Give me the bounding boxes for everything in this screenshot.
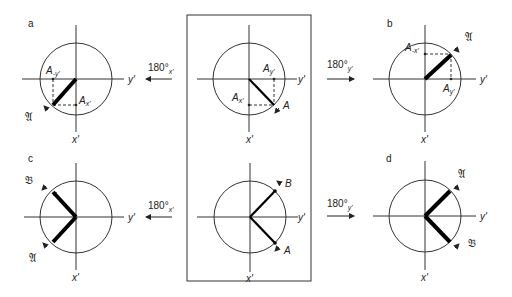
panel-c-letter: c: [28, 153, 33, 164]
rotation-top-left-label: 180°x': [148, 62, 174, 75]
center-bottom-vector-b-label: B: [285, 178, 292, 189]
panel-c-vector-1: [53, 192, 76, 217]
panel-a-proj-dot-y: [52, 78, 55, 81]
rotation-bottom-right-label: 180°y': [327, 198, 353, 212]
panel-c: c 𝔅 𝔄 y' x': [24, 153, 136, 283]
panel-a-y-axis-label: y': [127, 74, 136, 85]
center-bottom-vector-b: [250, 191, 275, 217]
rotation-top-right: 180°y': [327, 59, 354, 79]
panel-d-rotation-arrow-2-icon: [455, 244, 459, 248]
panel-b-letter: b: [387, 18, 393, 29]
panel-a-vector-label: 𝔄: [25, 111, 33, 124]
center-bottom-vector-a-label: A: [283, 245, 291, 256]
rotation-top-right-label: 180°y': [327, 59, 353, 73]
panel-d: d 𝔄 𝔅 y' x': [373, 153, 488, 283]
panel-c-y-axis-label: y': [127, 212, 136, 223]
panel-a-vector: [53, 79, 76, 105]
panel-d-vector-2: [425, 216, 450, 242]
panel-b-y-axis-label: y': [479, 74, 488, 85]
center-top-x-axis-label: x': [245, 134, 254, 145]
center-top-proj-y-label: Ay': [262, 63, 275, 76]
panel-a: a A-y' Ax' y' x' 𝔄: [22, 18, 136, 145]
center-top-proj-dot-x: [248, 104, 251, 107]
panel-d-vector-2-label: 𝔅: [468, 237, 476, 250]
panel-a-proj-dot-x: [75, 104, 78, 107]
panel-b-x-axis-label: x': [420, 134, 429, 145]
center-bottom-vector-a-tip: [273, 241, 277, 245]
panel-d-vector-1-label: 𝔄: [458, 168, 466, 181]
panel-a-letter: a: [28, 18, 34, 29]
panel-d-letter: d: [386, 153, 392, 164]
panel-a-rotation-arrow-icon: [44, 106, 48, 110]
center-top-vector-label: A: [282, 100, 290, 111]
rotation-bottom-right: 180°y': [327, 198, 354, 216]
rotation-bottom-left: 180°x': [146, 200, 174, 217]
panel-b-rotation-arrow-icon: [455, 48, 459, 52]
rotation-bottom-left-label: 180°x': [148, 200, 174, 213]
panel-d-x-axis-label: x': [420, 272, 429, 283]
panel-b-vector-label: 𝔄: [465, 31, 473, 44]
center-bottom-y-axis-label: y': [297, 212, 306, 223]
center-top-proj-dot-y: [273, 78, 276, 81]
panel-a-proj-neg-y-label: A-y': [45, 65, 61, 78]
center-top-vector: [249, 79, 274, 105]
panel-a-proj-x-label: Ax': [78, 95, 91, 107]
center-bottom-rotation-arrow-a-icon: [275, 247, 279, 251]
center-bottom-vector-a: [250, 217, 275, 243]
panel-c-rotation-arrow-1-icon: [42, 186, 46, 190]
panel-b: b A-x' Ay' y' x' 𝔄: [373, 18, 488, 145]
panel-b-proj-y-label: Ay': [442, 83, 455, 96]
rotation-top-left: 180°x': [146, 62, 174, 79]
panel-c-vector-1-label: 𝔅: [25, 174, 33, 187]
center-bottom-x-axis-label: x': [245, 273, 254, 284]
panel-a-x-axis-label: x': [71, 134, 80, 145]
panel-c-vector-2-label: 𝔄: [29, 252, 37, 265]
center-bottom-vector-b-tip: [273, 189, 277, 193]
panel-b-vector: [425, 55, 451, 79]
panel-center-top: Ay' Ax' y' x' A: [197, 25, 306, 145]
panel-c-x-axis-label: x': [71, 272, 80, 283]
center-top-y-axis-label: y': [297, 74, 306, 85]
panel-d-vector-1: [425, 191, 450, 216]
panel-c-vector-2: [53, 217, 76, 242]
panel-b-proj-dot-y: [450, 78, 453, 81]
panel-d-y-axis-label: y': [479, 211, 488, 222]
center-top-proj-x-label: Ax': [231, 92, 244, 104]
panel-c-rotation-arrow-2-icon: [43, 243, 47, 247]
panel-d-rotation-arrow-1-icon: [455, 186, 459, 190]
panel-b-proj-dot-x: [424, 53, 427, 56]
panel-center-bottom: B A y' x': [197, 163, 306, 284]
rotation-diagram: a A-y' Ax' y' x' 𝔄 180°x' Ay' Ax' y' x': [0, 0, 512, 297]
center-top-rotation-arrow-icon: [275, 108, 279, 113]
center-bottom-rotation-arrow-b-icon: [277, 181, 281, 184]
